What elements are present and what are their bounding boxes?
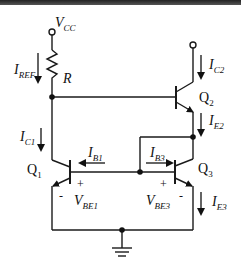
vbe1-plus: + [77,178,84,190]
vbe3-label: VBE3 [146,194,170,211]
vbe1-minus: - [59,190,63,202]
vcc-label: VCC [55,16,76,33]
ib1-label: IB1 [88,146,103,163]
junction-dot [137,169,143,175]
ie2-label: IE2 [209,114,224,131]
junction-dot [190,134,196,140]
q2-collector-terminal [190,42,196,48]
resistor-label: R [63,72,72,86]
vbe1-label: VBE1 [74,194,98,211]
ic1-label: IC1 [20,130,35,147]
resistor-r [47,50,57,97]
ib3-label: IB3 [150,146,165,163]
iref-label: IREF [14,63,35,80]
junction-dot [49,94,55,100]
q1-label: Q1 [27,163,42,180]
q2-label: Q2 [199,91,214,108]
circuit-schematic [0,0,241,277]
vbe3-plus: + [160,178,167,190]
ic2-label: IC2 [209,58,224,75]
vbe3-minus: - [179,190,183,202]
ie3-label: IE3 [212,195,227,212]
q3-label: Q3 [198,162,213,179]
junction-dot [119,227,125,233]
